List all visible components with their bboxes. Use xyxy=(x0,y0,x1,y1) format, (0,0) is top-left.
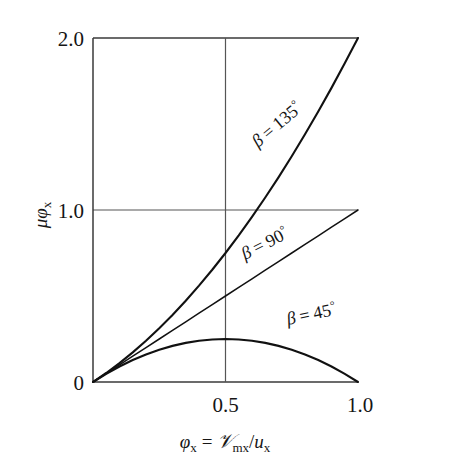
x-axis-title: φx=𝒱mx/ux xyxy=(180,429,271,455)
curve-label-beta-135: β=135° xyxy=(246,97,306,152)
x-tick-label-1: 1.0 xyxy=(347,393,373,417)
curve-label-beta-45: β=45° xyxy=(283,298,337,329)
x-axis-equals: = xyxy=(202,431,213,452)
y-axis-title: μφx xyxy=(30,201,54,229)
svg-text:β=45°: β=45° xyxy=(283,298,337,329)
y-tick-label-2: 2.0 xyxy=(58,27,84,51)
x-axis-phi: φ xyxy=(180,431,191,452)
svg-text:φx=𝒱mx/ux: φx=𝒱mx/ux xyxy=(180,429,271,455)
chart-figure: 2.0 1.0 0 0 0.5 1.0 μφx φx=𝒱mx/ux β=135° xyxy=(0,0,460,465)
y-axis-sub: x xyxy=(39,201,54,208)
svg-text:μφx: μφx xyxy=(30,201,54,229)
x-tick-label-05: 0.5 xyxy=(212,393,238,417)
svg-text:β=135°: β=135° xyxy=(246,97,306,152)
y-axis-mu: μ xyxy=(30,219,51,230)
y-tick-label-1: 1.0 xyxy=(58,199,84,223)
plot-svg: 2.0 1.0 0 0 0.5 1.0 μφx φx=𝒱mx/ux β=135° xyxy=(0,0,460,465)
x-axis-phi-sub: x xyxy=(190,440,197,455)
x-axis-u: u xyxy=(254,431,264,452)
beta-45-equals: = xyxy=(297,305,311,327)
x-axis-v-sub: mx xyxy=(232,440,249,455)
beta-45-symbol: β xyxy=(284,307,298,329)
y-axis-phi: φ xyxy=(30,208,51,219)
x-axis-u-sub: x xyxy=(264,440,271,455)
